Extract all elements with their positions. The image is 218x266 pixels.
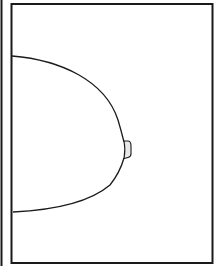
frame	[12, 4, 213, 263]
nipple	[124, 141, 131, 159]
breast-contour	[12, 56, 124, 212]
breast-diagram	[0, 0, 218, 266]
